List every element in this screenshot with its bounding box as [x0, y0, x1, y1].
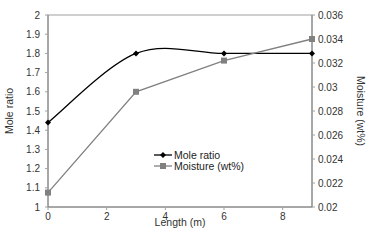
y2-tick-label: 0.036 — [318, 10, 343, 21]
data-point-square — [221, 58, 227, 64]
x-axis-title: Length (m) — [155, 216, 206, 228]
y2-tick-label: 0.03 — [318, 82, 338, 93]
y-tick-label: 1.5 — [26, 106, 40, 117]
y-tick-label: 1.4 — [26, 125, 40, 136]
data-point-diamond — [221, 50, 227, 56]
legend-item: Moisture (wt%) — [154, 160, 244, 172]
y2-tick-label: 0.024 — [318, 154, 343, 165]
left-axis: 11.11.21.31.41.51.61.71.81.92 — [26, 10, 48, 213]
data-point-diamond — [309, 50, 315, 56]
y-tick-label: 1.8 — [26, 48, 40, 59]
y2-tick-label: 0.022 — [318, 178, 343, 189]
data-point-square — [45, 190, 51, 196]
x-tick-label: 0 — [45, 211, 51, 222]
y-tick-label: 1.7 — [26, 67, 40, 78]
plot-frame — [48, 15, 312, 207]
right-axis: 0.020.0220.0240.0260.0280.030.0320.0340.… — [312, 10, 343, 213]
series-moisture — [45, 36, 315, 196]
legend: Mole ratioMoisture (wt%) — [154, 149, 244, 172]
y2-tick-label: 0.02 — [318, 202, 338, 213]
y-tick-label: 1.1 — [26, 182, 40, 193]
y2-axis-title: Moisture (wt%) — [355, 76, 367, 146]
y-axis-title: Mole ratio — [3, 88, 15, 134]
chart: 11.11.21.31.41.51.61.71.81.92 0.020.0220… — [0, 0, 368, 248]
series-mole-ratio — [45, 48, 315, 125]
y-tick-label: 1.3 — [26, 144, 40, 155]
data-point-diamond — [133, 50, 139, 56]
y-tick-label: 1.6 — [26, 86, 40, 97]
legend-diamond-icon — [160, 152, 166, 158]
y2-tick-label: 0.028 — [318, 106, 343, 117]
x-tick-label: 6 — [221, 211, 227, 222]
y2-tick-label: 0.032 — [318, 58, 343, 69]
y-tick-label: 1 — [34, 202, 40, 213]
y-tick-label: 1.9 — [26, 29, 40, 40]
data-point-square — [309, 36, 315, 42]
x-tick-label: 8 — [280, 211, 286, 222]
y2-tick-label: 0.034 — [318, 34, 343, 45]
legend-label: Moisture (wt%) — [174, 160, 244, 172]
series-group — [45, 36, 315, 196]
y-tick-label: 2 — [34, 10, 40, 21]
y-tick-label: 1.2 — [26, 163, 40, 174]
legend-square-icon — [160, 163, 166, 169]
plot-area — [48, 15, 312, 207]
data-point-square — [133, 89, 139, 95]
y2-tick-label: 0.026 — [318, 130, 343, 141]
x-tick-label: 2 — [104, 211, 110, 222]
